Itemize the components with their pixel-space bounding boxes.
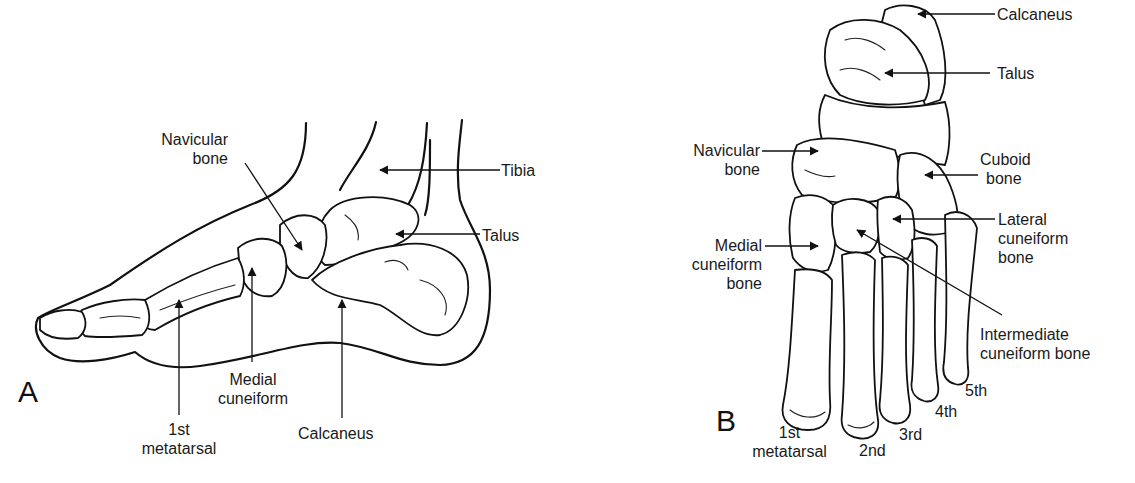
panel-letter-b: B (716, 406, 736, 436)
label-line: bone (998, 248, 1068, 267)
label-tibia-a: Tibia (501, 161, 535, 180)
foot-b-lateral-cuneiform (877, 197, 914, 260)
label-third-metatarsal-b: 3rd (899, 425, 922, 444)
label-fifth-metatarsal-b: 5th (965, 381, 987, 400)
label-first-metatarsal-a: 1st metatarsal (132, 420, 226, 458)
foot-b-metatarsal-2 (842, 252, 879, 438)
label-fourth-metatarsal-b: 4th (935, 402, 957, 421)
label-line: 1st (132, 420, 226, 439)
label-line: cuneiform (212, 389, 294, 408)
foot-b-metatarsal-5 (943, 212, 977, 384)
label-calcaneus-b: Calcaneus (997, 5, 1073, 24)
foot-a-leg-line-3 (425, 140, 430, 215)
label-line: bone (980, 169, 1031, 188)
label-line: cuneiform bone (980, 344, 1090, 363)
label-line: bone (665, 160, 760, 179)
foot-a-leg-line-1 (340, 122, 376, 190)
foot-b-navicular (792, 138, 899, 203)
label-line: Navicular (665, 141, 760, 160)
panel-letter-a: A (18, 377, 38, 407)
label-line: Medial (665, 236, 762, 255)
foot-a-leg-line-2 (408, 123, 427, 205)
label-line: Intermediate (980, 325, 1090, 344)
label-line: Navicular (140, 130, 228, 149)
label-line: bone (140, 149, 228, 168)
label-calcaneus-a: Calcaneus (298, 424, 374, 443)
foot-a-first-metatarsal (140, 258, 244, 330)
label-line: Lateral (998, 210, 1068, 229)
label-line: 1st (742, 423, 837, 442)
foot-b-medial-cuneiform (789, 195, 835, 272)
label-medial-cuneiform-bone-b: Medial cuneiform bone (665, 236, 762, 293)
label-line: bone (665, 274, 762, 293)
foot-a-medial-cuneiform (238, 239, 286, 297)
label-line: metatarsal (132, 439, 226, 458)
foot-a-proximal-phalanx (78, 299, 149, 337)
label-line: cuneiform (665, 255, 762, 274)
panel-a-illustration (0, 0, 1135, 483)
label-lateral-cuneiform-bone-b: Lateral cuneiform bone (998, 210, 1068, 267)
label-line: cuneiform (998, 229, 1068, 248)
foot-b-intermediate-cuneiform (832, 199, 880, 253)
label-cuboid-bone-b: Cuboid bone (980, 150, 1031, 188)
label-line: metatarsal (742, 442, 837, 461)
foot-b-metatarsal-4 (912, 238, 939, 401)
label-navicular-bone-a: Navicular bone (140, 130, 228, 168)
label-line: Cuboid (980, 150, 1031, 169)
foot-b-metatarsal-3 (880, 257, 911, 424)
foot-b-metatarsal-1 (782, 269, 832, 430)
label-talus-b: Talus (997, 64, 1034, 83)
label-line: Medial (212, 370, 294, 389)
label-medial-cuneiform-a: Medial cuneiform (212, 370, 294, 408)
foot-a-distal-phalanx (40, 310, 85, 339)
label-first-metatarsal-b: 1st metatarsal (742, 423, 837, 461)
label-navicular-bone-b: Navicular bone (665, 141, 760, 179)
label-second-metatarsal-b: 2nd (859, 441, 886, 460)
label-talus-a: Talus (482, 226, 519, 245)
foot-anatomy-figure: A Navicular bone Tibia Talus Medial cune… (0, 0, 1135, 483)
label-intermediate-cuneiform-bone-b: Intermediate cuneiform bone (980, 325, 1090, 363)
